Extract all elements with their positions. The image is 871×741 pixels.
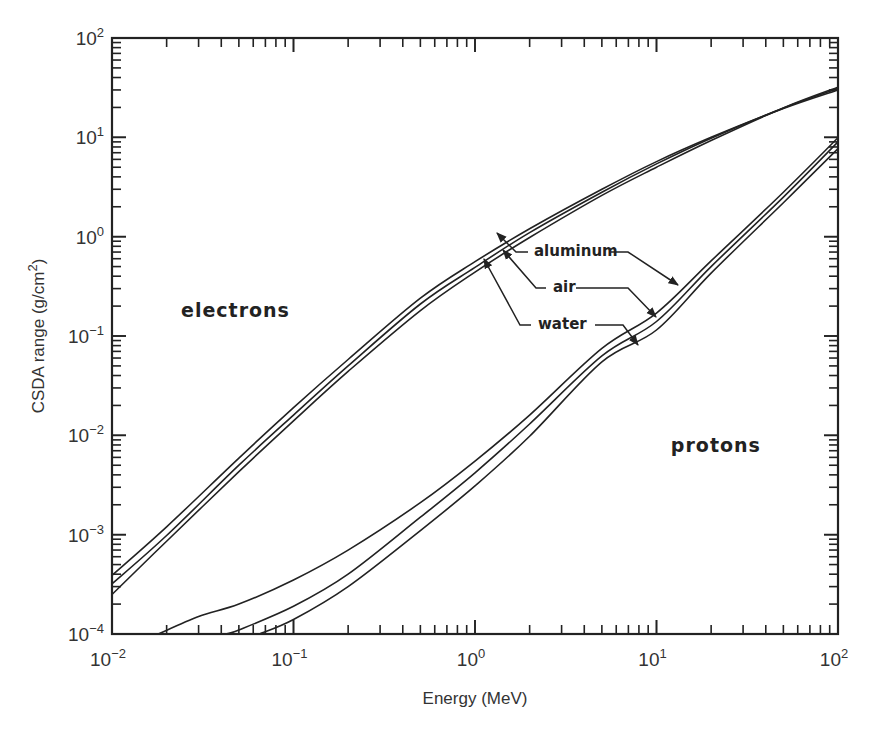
curve-electrons-aluminum: [112, 90, 838, 575]
y-tick-label: 10−3: [68, 522, 104, 546]
annotation-water: water: [538, 315, 587, 333]
y-tick-label: 10−1: [68, 323, 104, 347]
group-labels: electronsprotons: [181, 299, 761, 456]
material-annotations: aluminumairwater: [484, 233, 678, 345]
minor-ticks: [112, 38, 838, 634]
y-axis-title-end: ): [29, 259, 48, 265]
curve-protons-air: [225, 142, 838, 634]
annotation-aluminum: aluminum: [534, 242, 618, 260]
y-axis-tick-labels: 10−410−310−210−1100101102: [68, 25, 104, 645]
label-protons: protons: [671, 434, 761, 456]
y-tick-label: 101: [76, 124, 104, 148]
x-axis-title: Energy (MeV): [423, 689, 528, 708]
x-tick-label: 101: [638, 646, 666, 670]
y-tick-label: 10−2: [68, 422, 104, 446]
x-tick-label: 100: [457, 646, 485, 670]
curve-protons-aluminum: [158, 138, 838, 634]
y-tick-label: 100: [76, 224, 104, 248]
y-axis-title-sup: 2: [25, 264, 40, 271]
leader-arrow-water-left: [484, 259, 531, 325]
y-axis-title-main: CSDA range (g/cm: [29, 272, 48, 414]
leader-arrow-aluminum-right: [611, 252, 678, 285]
annotation-air: air: [553, 278, 576, 296]
label-electrons: electrons: [181, 299, 290, 321]
y-axis-title: CSDA range (g/cm2): [25, 259, 48, 414]
curve-electrons-air: [112, 89, 838, 584]
y-tick-label: 102: [76, 25, 104, 49]
plot-frame: [112, 38, 838, 634]
leader-arrow-air-right: [576, 288, 656, 317]
leader-arrow-water-right: [595, 325, 638, 345]
x-tick-label: 10−2: [90, 646, 126, 670]
csda-range-chart: 10−210−1100101102 10−410−310−210−1100101…: [0, 0, 871, 741]
curve-electrons-water: [112, 87, 838, 594]
y-tick-label: 10−4: [68, 621, 104, 645]
x-tick-label: 102: [820, 646, 848, 670]
x-axis-tick-labels: 10−210−1100101102: [90, 646, 848, 670]
curves-group: [112, 87, 838, 634]
x-tick-label: 10−1: [272, 646, 308, 670]
